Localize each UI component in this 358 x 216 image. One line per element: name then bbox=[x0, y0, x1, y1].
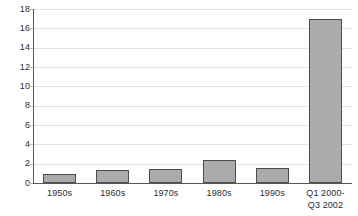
bar-slot bbox=[86, 9, 139, 183]
y-tick-mark bbox=[29, 67, 33, 68]
y-tick-mark bbox=[29, 48, 33, 49]
x-tick-label: 1990s bbox=[246, 186, 299, 216]
x-tick-label-line: 1960s bbox=[100, 188, 125, 198]
y-tick-label: 4 bbox=[4, 140, 30, 149]
x-tick-label: 1970s bbox=[139, 186, 192, 216]
bar bbox=[96, 170, 129, 183]
y-tick-mark bbox=[29, 183, 33, 184]
bar bbox=[256, 168, 289, 183]
x-tick-label: Q1 2000-Q3 2002 bbox=[299, 186, 352, 216]
bar-slot bbox=[193, 9, 246, 183]
bar bbox=[149, 169, 182, 183]
y-tick-label: 2 bbox=[4, 159, 30, 168]
x-tick-label-line: 1980s bbox=[207, 188, 232, 198]
bar bbox=[203, 160, 236, 183]
bar-slot bbox=[33, 9, 86, 183]
y-tick-mark bbox=[29, 86, 33, 87]
bar-slot bbox=[246, 9, 299, 183]
bar-slot bbox=[299, 9, 352, 183]
bar-slot bbox=[139, 9, 192, 183]
x-tick-label-line: Q1 2000- bbox=[306, 188, 344, 198]
bar bbox=[309, 19, 342, 183]
x-tick-label-line: Q3 2002 bbox=[299, 200, 352, 212]
x-tick-label: 1950s bbox=[33, 186, 86, 216]
y-tick-label: 16 bbox=[4, 24, 30, 33]
y-tick-mark bbox=[29, 106, 33, 107]
y-tick-label: 14 bbox=[4, 43, 30, 52]
x-tick-label-line: 1970s bbox=[153, 188, 178, 198]
x-tick-label: 1980s bbox=[193, 186, 246, 216]
bar-chart: 024681012141618 1950s1960s1970s1980s1990… bbox=[0, 0, 358, 216]
y-tick-mark bbox=[29, 144, 33, 145]
y-tick-mark bbox=[29, 125, 33, 126]
y-tick-label: 8 bbox=[4, 101, 30, 110]
x-tick-label-line: 1950s bbox=[47, 188, 72, 198]
y-tick-mark bbox=[29, 9, 33, 10]
x-tick-label: 1960s bbox=[86, 186, 139, 216]
bar bbox=[43, 174, 76, 183]
y-tick-label: 12 bbox=[4, 63, 30, 72]
y-tick-label: 10 bbox=[4, 82, 30, 91]
y-tick-label: 6 bbox=[4, 121, 30, 130]
x-axis-labels: 1950s1960s1970s1980s1990sQ1 2000-Q3 2002 bbox=[33, 186, 352, 216]
x-axis-line bbox=[33, 183, 352, 184]
y-tick-label: 0 bbox=[4, 179, 30, 188]
y-tick-mark bbox=[29, 164, 33, 165]
y-axis-ticks: 024681012141618 bbox=[0, 0, 30, 216]
y-tick-mark bbox=[29, 28, 33, 29]
y-tick-label: 18 bbox=[4, 5, 30, 14]
x-tick-label-line: 1990s bbox=[260, 188, 285, 198]
bar-series bbox=[33, 9, 352, 183]
